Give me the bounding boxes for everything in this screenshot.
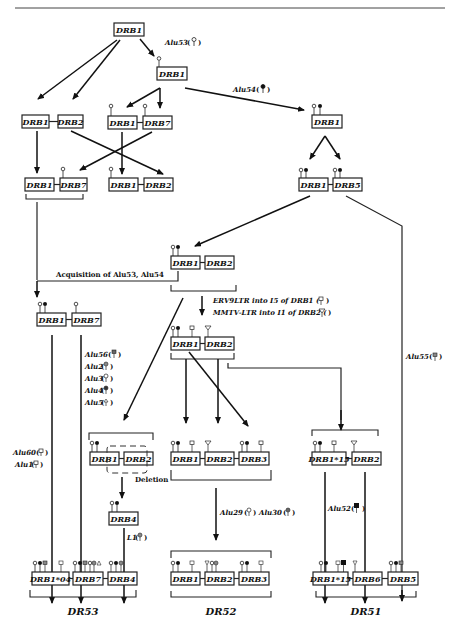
svg-text:DRB2: DRB2: [125, 454, 152, 464]
svg-text:Alu29: Alu29: [219, 508, 243, 517]
svg-text:): ): [45, 448, 48, 457]
node-root: DRB1: [114, 23, 144, 36]
diagram-canvas: DRB1 Alu53 ( ) DRB1 Alu54 ( ) DRB1 DRB2: [0, 0, 462, 630]
svg-text:): ): [110, 374, 113, 383]
open-square-icon: [319, 297, 323, 301]
svg-text:): ): [362, 504, 365, 513]
svg-text:DRB7: DRB7: [74, 574, 101, 584]
bracket: [171, 285, 236, 291]
svg-text:DRB1*04: DRB1*04: [29, 574, 72, 584]
svg-text:DRB3: DRB3: [240, 574, 267, 584]
evolution-diagram: DRB1 Alu53 ( ) DRB1 Alu54 ( ) DRB1 DRB2: [0, 0, 462, 630]
bracket: [171, 470, 271, 480]
node-ltr-pair: DRB1 DRB2: [171, 326, 234, 359]
mmtv-annotation: MMTV-LTR into I1 of DRB2 ( ): [212, 308, 331, 317]
svg-text:DRB5: DRB5: [334, 180, 361, 190]
bracket: [26, 194, 83, 199]
svg-text:DRB6: DRB6: [354, 574, 381, 584]
svg-text:DRB1: DRB1: [91, 454, 118, 464]
svg-text:): ): [144, 533, 147, 542]
svg-text:DRB2: DRB2: [206, 574, 233, 584]
bracket: [171, 591, 271, 597]
svg-text:(: (: [108, 350, 111, 359]
svg-text:): ): [328, 308, 331, 317]
node-right-pair: DRB1 DRB5: [299, 168, 362, 191]
bracket: [171, 353, 234, 359]
svg-text:DRB1: DRB1: [172, 454, 199, 464]
svg-text:): ): [118, 350, 121, 359]
svg-text:DRB1: DRB1: [109, 118, 136, 128]
svg-text:(: (: [187, 38, 190, 47]
alu53-marker-icon: [157, 57, 161, 61]
connector-dr51: [346, 196, 402, 600]
svg-text:DRB1: DRB1: [110, 180, 137, 190]
svg-text:DRB4: DRB4: [110, 514, 137, 524]
node-drb4: DRB4: [109, 501, 138, 525]
svg-text:DRB2: DRB2: [206, 258, 233, 268]
svg-text:DRB7: DRB7: [144, 118, 171, 128]
haplotype-dr53: DRB1*04 DRB7 DRB4 DR53: [29, 561, 137, 617]
svg-text:(: (: [256, 85, 259, 94]
alu29-alu30-annotation: Alu29 ( ) Alu30 ( ): [219, 508, 295, 517]
open-circle-icon: [192, 38, 196, 42]
group-label-dr51: DR51: [350, 606, 382, 617]
svg-text:ERV9LTR into I5 of DRB1 (: ERV9LTR into I5 of DRB1 (: [212, 296, 320, 305]
svg-text:DRB1: DRB1: [172, 339, 199, 349]
group-label-dr52: DR52: [205, 606, 237, 617]
arrow: [195, 196, 310, 246]
l1-annotation: L1 ( ): [126, 533, 147, 542]
svg-text:Alu60: Alu60: [12, 448, 36, 457]
arrow: [38, 40, 117, 99]
dark-circle-icon: [104, 386, 108, 390]
svg-text:): ): [292, 508, 295, 517]
bracket: [30, 590, 136, 597]
svg-text:): ): [198, 38, 201, 47]
svg-text:MMTV-LTR into I1 of DRB2 (: MMTV-LTR into I1 of DRB2 (: [212, 308, 327, 317]
bracket: [312, 430, 378, 436]
acquisition-label: Acquisition of Alu53, Alu54: [55, 270, 164, 279]
svg-text:): ): [40, 460, 43, 469]
svg-text:DRB2: DRB2: [145, 180, 172, 190]
node-dr52-pre: DRB1 DRB2 DRB3: [171, 441, 271, 480]
node-dr53-pre: DRB1 DRB7: [37, 302, 101, 326]
arrow: [325, 136, 340, 159]
svg-text:Alu52: Alu52: [327, 504, 351, 513]
erv9-annotation: ERV9LTR into I5 of DRB1 ( ): [212, 296, 329, 305]
svg-text:): ): [110, 398, 113, 407]
alu52-annotation: Alu52 ( ): [327, 503, 365, 513]
bracket: [171, 551, 271, 558]
svg-text:(: (: [351, 504, 354, 513]
svg-text:DRB1*15: DRB1*15: [307, 454, 350, 464]
svg-text:Alu55: Alu55: [405, 352, 429, 361]
svg-text:DRB1: DRB1: [300, 180, 327, 190]
filled-circle-icon: [261, 85, 265, 89]
arrow: [127, 88, 160, 107]
svg-text:DRB5: DRB5: [389, 574, 416, 584]
svg-text:): ): [253, 508, 256, 517]
svg-text:DRB1: DRB1: [38, 315, 65, 325]
svg-text:Alu53: Alu53: [164, 38, 188, 47]
alu53-annotation: Alu53 ( ): [164, 38, 201, 48]
haplotype-dr52: DRB1 DRB2 DRB3 DR52: [171, 551, 271, 617]
svg-text:): ): [110, 362, 113, 371]
open-circle-icon: [104, 374, 108, 378]
arrow: [310, 136, 325, 159]
arrow: [140, 39, 154, 56]
svg-text:): ): [439, 352, 442, 361]
svg-text:DRB3: DRB3: [240, 454, 267, 464]
hatched-circle-icon: [104, 362, 108, 366]
svg-text:(: (: [429, 352, 432, 361]
svg-text:Alu56: Alu56: [84, 350, 108, 359]
bracket: [316, 591, 416, 597]
alu55-annotation: Alu55 ( ): [405, 352, 442, 361]
svg-text:DRB1: DRB1: [172, 258, 199, 268]
svg-text:DRB2: DRB2: [206, 339, 233, 349]
node-drb1-alu54: DRB1: [312, 104, 342, 128]
alu-insertions-dr53: Alu56 ( ) Alu2 ( ) Alu3 ( ) Alu4 ( ) Alu…: [84, 350, 121, 407]
node-center-pair: DRB1 DRB2: [171, 245, 236, 291]
svg-text:Alu54: Alu54: [232, 85, 256, 94]
alu54-annotation: Alu54 ( ): [232, 85, 270, 95]
open-triangle-icon: [104, 399, 108, 402]
gene-label: DRB1: [115, 25, 142, 35]
svg-text:DRB1: DRB1: [26, 180, 53, 190]
